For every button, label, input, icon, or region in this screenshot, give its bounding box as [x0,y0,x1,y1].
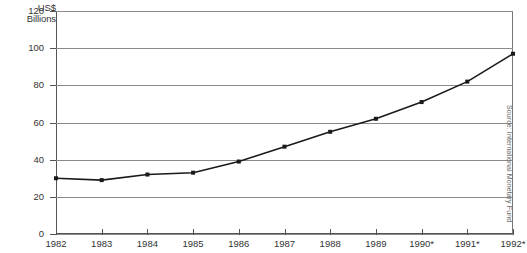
gridline [56,48,513,49]
x-tick-mark [102,229,103,235]
x-tick-label: 1992* [483,239,527,249]
plot-area [56,11,513,234]
gridline [56,85,513,86]
y-tick-label: 100 [0,43,44,53]
y-tick-label: 0 [0,229,44,239]
y-tick-mark [50,11,56,12]
x-tick-mark [239,229,240,235]
x-tick-mark [376,229,377,235]
y-tick-label: 60 [0,118,44,128]
y-tick-mark [50,160,56,161]
y-tick-label: 20 [0,192,44,202]
y-tick-mark [50,48,56,49]
y-tick-label: 40 [0,155,44,165]
y-tick-mark [50,123,56,124]
x-tick-mark [56,229,57,235]
y-tick-mark [50,85,56,86]
x-tick-mark [467,229,468,235]
x-tick-mark [147,229,148,235]
x-tick-mark [422,229,423,235]
gridline [56,123,513,124]
y-tick-label: 80 [0,80,44,90]
chart-container: US$ Billions 020406080100120 19821983198… [0,0,527,253]
gridline [56,160,513,161]
source-note: Source: International Monetary Fund [505,105,513,222]
x-tick-mark [330,229,331,235]
gridline [56,11,513,12]
x-tick-mark [193,229,194,235]
x-tick-mark [285,229,286,235]
x-tick-mark [513,229,514,235]
gridline [56,197,513,198]
y-tick-label: 120 [0,6,44,16]
y-tick-mark [50,197,56,198]
